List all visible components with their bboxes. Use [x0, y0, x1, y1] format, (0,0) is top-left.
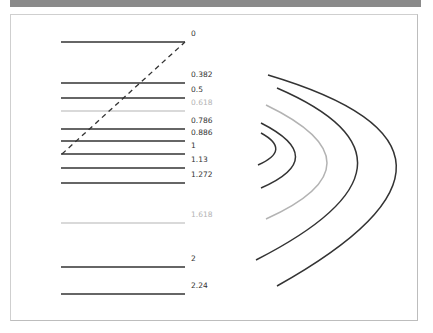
level-label: 1.13: [191, 155, 208, 164]
level-label: 0: [191, 29, 196, 38]
level-label: 0.5: [191, 85, 203, 94]
arc-5: [268, 75, 396, 286]
level-label: 0.382: [191, 70, 213, 79]
level-label: 1: [191, 141, 196, 150]
arc-4: [256, 88, 358, 260]
level-label: 0.618: [191, 98, 213, 107]
arc-1: [258, 133, 276, 165]
level-label: 0.786: [191, 116, 213, 125]
level-label: 1.272: [191, 170, 213, 179]
retracement-levels: 00.3820.50.6180.7860.88611.131.2721.6182…: [61, 29, 213, 294]
fibonacci-diagram: 00.3820.50.6180.7860.88611.131.2721.6182…: [0, 0, 433, 333]
level-label: 0.886: [191, 128, 213, 137]
level-label: 1.618: [191, 210, 213, 219]
level-label: 2.24: [191, 281, 208, 290]
arc-3: [266, 105, 327, 219]
fibonacci-arcs: [256, 75, 396, 286]
level-label: 2: [191, 254, 196, 263]
arc-2: [261, 123, 296, 188]
